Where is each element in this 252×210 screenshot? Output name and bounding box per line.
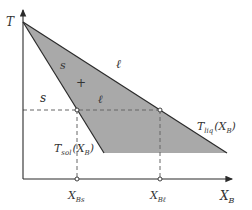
solid-region-label: s <box>40 91 46 105</box>
two-phase-plus-label: + <box>76 76 86 90</box>
xbs-label: XBs <box>67 189 85 204</box>
solidus-label: Tsol(XB) <box>54 142 94 157</box>
phase-diagram: T XB ℓ s s + ℓ Tsol(XB) Tliq(XB) XBs XBℓ <box>0 0 252 210</box>
liquidus-label: Tliq(XB) <box>197 120 236 135</box>
xbl-label: XBℓ <box>149 189 166 204</box>
liquid-region-label: ℓ <box>116 57 121 71</box>
two-phase-s-label: s <box>60 59 66 72</box>
two-phase-l-label: ℓ <box>98 93 103 106</box>
x-axis-label: XB <box>219 189 235 205</box>
xbl-tick <box>158 177 162 181</box>
liquidus-point <box>158 108 162 112</box>
y-axis-label: T <box>6 15 15 29</box>
xbs-tick <box>75 177 79 181</box>
solidus-point <box>75 108 79 112</box>
